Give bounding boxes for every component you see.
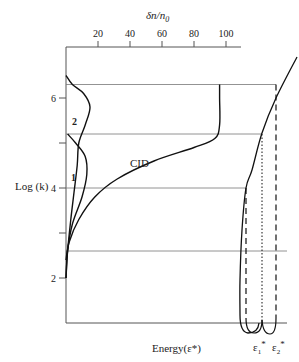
top-axis-title: δn/n0 [146, 9, 169, 24]
left-axis: 246 [51, 93, 66, 284]
top-axis-tick-label: 20 [93, 28, 103, 39]
epsilon1-label: ε1* [253, 339, 266, 356]
chart: 20406080100 246 δn/n0 Log (k) Energy(ε*)… [0, 0, 299, 362]
energy-curves [240, 57, 297, 334]
series-label-cid: CID [130, 157, 149, 169]
epsilon2-bottom-curve [262, 318, 276, 334]
series-label-2: 2 [72, 116, 77, 127]
series-label-1: 1 [71, 172, 76, 183]
top-axis-tick-label: 100 [219, 28, 234, 39]
left-axis-tick-label: 4 [51, 183, 56, 194]
top-axis-tick-label: 60 [157, 28, 167, 39]
left-axis-tick-label: 6 [51, 93, 56, 104]
epsilon1-bottom-curve [246, 318, 262, 333]
top-axis: 20406080100 [93, 28, 234, 47]
reference-lines [66, 85, 287, 252]
series-curve-1 [66, 134, 87, 278]
series-group [66, 76, 220, 279]
energy-boundary-curve [240, 57, 297, 333]
epsilon2-label: ε2* [272, 339, 285, 356]
bottom-axis-title: Energy(ε*) [152, 342, 201, 355]
top-axis-tick-label: 40 [125, 28, 135, 39]
top-axis-tick-label: 80 [189, 28, 199, 39]
chart-frame [66, 47, 287, 323]
left-axis-tick-label: 2 [51, 273, 56, 284]
left-axis-title: Log (k) [15, 180, 49, 193]
